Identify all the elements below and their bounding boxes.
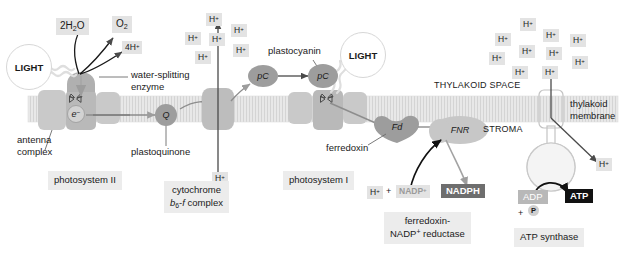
cyt-line2: b6-f complex	[170, 197, 223, 208]
proton-lumen-left-item-2: H+	[209, 33, 225, 46]
species-atp: ATP	[565, 189, 593, 203]
proton-lumen-right-item-3: H+	[570, 34, 586, 47]
species-adp: ADP	[518, 190, 548, 204]
species-nadp-plus: NADP+	[396, 185, 430, 198]
caption-photosystem-ii: photosystem II	[48, 171, 122, 190]
proton-lumen-right-item-6: H+	[546, 47, 562, 60]
phosphate-label: P	[531, 206, 536, 215]
proton-nadp-reactant: H+	[367, 186, 383, 199]
species-oxygen: O2	[112, 16, 132, 33]
membrane-line2: membrane	[570, 110, 615, 121]
plastoquinone-carrier: Q	[155, 104, 177, 126]
proton-lumen-left-item-1: H+	[185, 32, 201, 45]
proton-lumen-right-item-2: H+	[543, 29, 559, 42]
species-water: 2H2O	[56, 18, 89, 35]
nadp-to-fnr-arrow	[410, 140, 441, 190]
light-label-left: LIGHT	[6, 44, 52, 90]
thylakoid-space-label: THYLAKOID SPACE	[434, 80, 520, 92]
species-nadph: NADPH	[441, 184, 485, 198]
light-text-left: LIGHT	[15, 62, 44, 73]
light-label-right: LIGHT	[340, 32, 386, 78]
species-four-protons: 4H+	[122, 41, 142, 54]
plastoquinone-callout: plastoquinone	[131, 146, 190, 158]
water-splitting-arrows	[75, 30, 122, 74]
proton-lumen-left-item-3: H+	[231, 24, 247, 37]
ferredoxin-carrier: Fd	[383, 117, 411, 137]
light-text-right: LIGHT	[349, 50, 378, 61]
stroma-label: STROMA	[483, 124, 523, 136]
wse-line1: water-splitting	[131, 69, 190, 80]
wse-line2: enzyme	[131, 81, 164, 92]
photosynthesis-diagram: 2H2O O2 4H+ LIGHT LIGHT e− Q pC pC Fd FN…	[0, 0, 636, 263]
electron-carrier: e−	[67, 105, 85, 123]
proton-lumen-right-item-0: H+	[520, 18, 536, 31]
fnr-cap-line1: ferredoxin-	[405, 215, 450, 226]
fnr-carrier: FNR	[444, 120, 476, 140]
antenna-line2: complex	[17, 146, 52, 157]
ferredoxin-label: Fd	[392, 122, 403, 132]
ferredoxin-callout: ferredoxin	[326, 142, 368, 154]
proton-lumen-left-item-4: H+	[195, 51, 211, 64]
proton-lumen-left-item-0: H+	[206, 13, 222, 26]
caption-photosystem-i: photosystem I	[283, 171, 354, 190]
quinone-label: Q	[162, 110, 169, 120]
plastocyanin-carrier-left: pC	[248, 65, 278, 87]
plastocyanin-label-left: pC	[257, 71, 269, 81]
fnr-cap-line2: NADP+ reductase	[390, 228, 465, 239]
proton-lumen-right-item-4: H+	[519, 45, 535, 58]
plus-sign-nadp: +	[386, 186, 391, 198]
cyt-line1: cytochrome	[172, 184, 221, 195]
plastocyanin-carrier-right: pC	[308, 64, 338, 88]
membrane-line1: thylakoid	[570, 98, 608, 109]
proton-lumen-right-item-1: H+	[495, 33, 511, 46]
electron-label: e−	[72, 109, 81, 119]
thylakoid-membrane-label: thylakoid membrane	[570, 98, 615, 123]
diagram-artwork	[0, 0, 636, 263]
fnr-label: FNR	[451, 125, 470, 135]
plastocyanin-callout: plastocyanin	[268, 45, 321, 57]
caption-atp-synthase: ATP synthase	[514, 228, 584, 247]
proton-lumen-right-item-9: H+	[542, 66, 558, 79]
fnr-to-nadph-arrow	[446, 140, 467, 186]
proton-atp-synthase-out: H+	[596, 158, 612, 171]
photosystem-i-complex	[288, 90, 367, 130]
antenna-line1: antenna	[17, 134, 51, 145]
water-splitting-enzyme-callout: water-splitting enzyme	[131, 69, 190, 94]
antenna-complex-callout: antenna complex	[17, 134, 52, 159]
caption-fnr: ferredoxin- NADP+ reductase	[384, 212, 471, 244]
plus-sign-phosphate: +	[518, 208, 523, 220]
proton-lumen-right-item-5: H+	[489, 52, 505, 65]
caption-cytochrome-b6f: cytochrome b6-f complex	[164, 181, 229, 213]
proton-lumen-right-item-8: H+	[512, 66, 528, 79]
species-phosphate: P	[528, 205, 539, 216]
proton-lumen-left-item-5: H+	[233, 44, 249, 57]
proton-lumen-right-item-7: H+	[572, 56, 588, 69]
plastocyanin-label-right: pC	[317, 71, 329, 81]
